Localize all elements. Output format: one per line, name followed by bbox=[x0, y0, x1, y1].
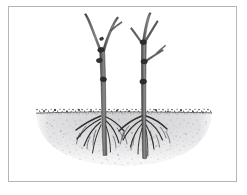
pruning-knob bbox=[140, 79, 147, 85]
figure-root: Two bare-root trees planted in a broad s… bbox=[0, 0, 247, 195]
tree-planting-illustration: Two bare-root trees planted in a broad s… bbox=[0, 0, 247, 195]
pruning-knob bbox=[99, 37, 104, 42]
tree-right-branch-3 bbox=[145, 49, 163, 61]
tree-right-twig-1 bbox=[156, 45, 165, 54]
soil-surface bbox=[36, 109, 212, 115]
pruning-knob bbox=[141, 59, 148, 65]
pruning-knob bbox=[140, 39, 147, 44]
tree-left-branch-2 bbox=[102, 17, 118, 52]
tree-left-branch-1 bbox=[85, 14, 103, 53]
figure-caption bbox=[10, 185, 130, 193]
